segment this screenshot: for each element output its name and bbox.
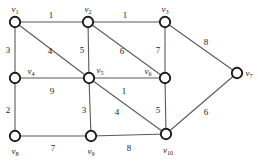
node-label-v3: v3 [161, 5, 168, 14]
node-label-index: 4 [31, 70, 34, 77]
edge-weight-label: 6 [120, 47, 125, 56]
graph-edge [89, 78, 91, 136]
edge-weight-label: 3 [82, 106, 87, 115]
edge-weight-label: 9 [50, 87, 55, 96]
graph-node [160, 73, 170, 83]
node-label-index: 1 [15, 8, 18, 15]
graph-node [10, 17, 20, 27]
node-label-v1: v1 [11, 5, 18, 14]
graph-node [160, 17, 170, 27]
node-label-index: 7 [249, 72, 252, 79]
edge-weight-label: 7 [156, 46, 161, 55]
edge-weight-label: 4 [48, 47, 53, 56]
edge-weight-label: 8 [204, 38, 209, 47]
node-label-v10: v10 [163, 146, 173, 155]
edge-weight-label: 6 [204, 108, 209, 117]
edge-weight-label: 4 [115, 108, 120, 117]
graph-node [83, 17, 93, 27]
graph-node [10, 131, 20, 141]
graph-edge [88, 22, 89, 78]
edge-weight-label: 2 [6, 106, 11, 115]
edge-weight-label: 7 [51, 144, 56, 153]
graph-node [84, 73, 94, 83]
edge-weight-label: 1 [122, 87, 127, 96]
node-label-index: 5 [100, 69, 103, 76]
node-label-v7: v7 [245, 69, 252, 78]
node-label-index: 3 [165, 8, 168, 15]
nodes-group [10, 17, 242, 141]
node-label-index: 9 [91, 150, 94, 157]
graph-node [86, 131, 96, 141]
graph-edge [91, 134, 166, 136]
edge-weight-label: 5 [156, 106, 161, 115]
graph-node [10, 73, 20, 83]
node-label-v4: v4 [27, 67, 34, 76]
node-label-v2: v2 [84, 5, 91, 14]
node-label-index: 6 [148, 70, 151, 77]
node-label-v6: v6 [144, 67, 151, 76]
graph-edge [89, 78, 166, 134]
node-label-v9: v9 [87, 147, 94, 156]
graph-node [161, 129, 171, 139]
weighted-graph-figure: 11345678912345678 v1v2v3v4v5v6v7v8v9v10 [0, 0, 258, 167]
edge-weight-label: 1 [123, 11, 128, 20]
graph-edge [166, 73, 237, 134]
node-label-index: 2 [88, 8, 91, 15]
node-label-index: 8 [15, 150, 18, 157]
edge-weight-label: 3 [6, 46, 11, 55]
node-label-index: 10 [167, 149, 173, 156]
graph-edge [165, 78, 166, 134]
graph-node [232, 68, 242, 78]
node-label-v5: v5 [96, 66, 103, 75]
node-label-v8: v8 [11, 147, 18, 156]
edge-weight-label: 8 [127, 144, 132, 153]
graph-edge [165, 22, 237, 73]
edge-weight-label: 1 [49, 11, 54, 20]
edge-weight-label: 5 [80, 46, 85, 55]
